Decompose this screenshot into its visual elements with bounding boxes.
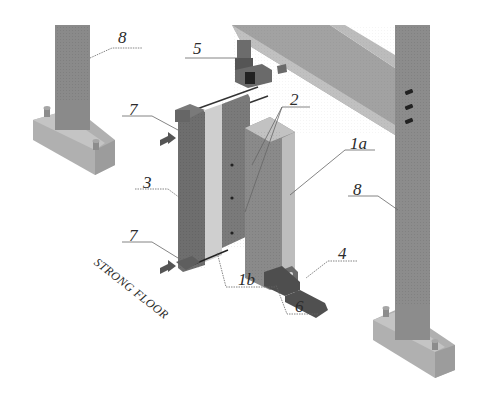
label-4: 4 [338, 245, 347, 262]
label-5: 5 [193, 40, 202, 57]
lateral-restraint-top-arrow [160, 132, 176, 146]
label-8-left: 8 [118, 29, 127, 46]
label-7-bottom: 7 [129, 227, 138, 244]
left-reaction-column [33, 25, 115, 175]
label-2: 2 [290, 91, 299, 108]
diagram-canvas: 8 5 2 7 1a 3 8 4 7 1b 6 STRONG FLOOR [0, 0, 483, 404]
label-7-top: 7 [129, 101, 138, 118]
diagram-drawing [0, 0, 483, 404]
label-3: 3 [143, 174, 152, 191]
label-8-right: 8 [353, 181, 362, 198]
label-1b: 1b [238, 271, 255, 288]
label-1a: 1a [350, 135, 367, 152]
lateral-restraint-bottom-arrow [160, 260, 176, 274]
label-6: 6 [295, 298, 304, 315]
